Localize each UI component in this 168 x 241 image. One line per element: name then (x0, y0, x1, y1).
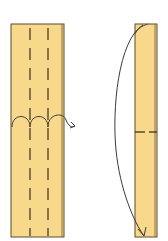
step-1-strip (11, 24, 75, 237)
step-2-strip (115, 24, 157, 237)
origami-diagram (0, 0, 168, 241)
